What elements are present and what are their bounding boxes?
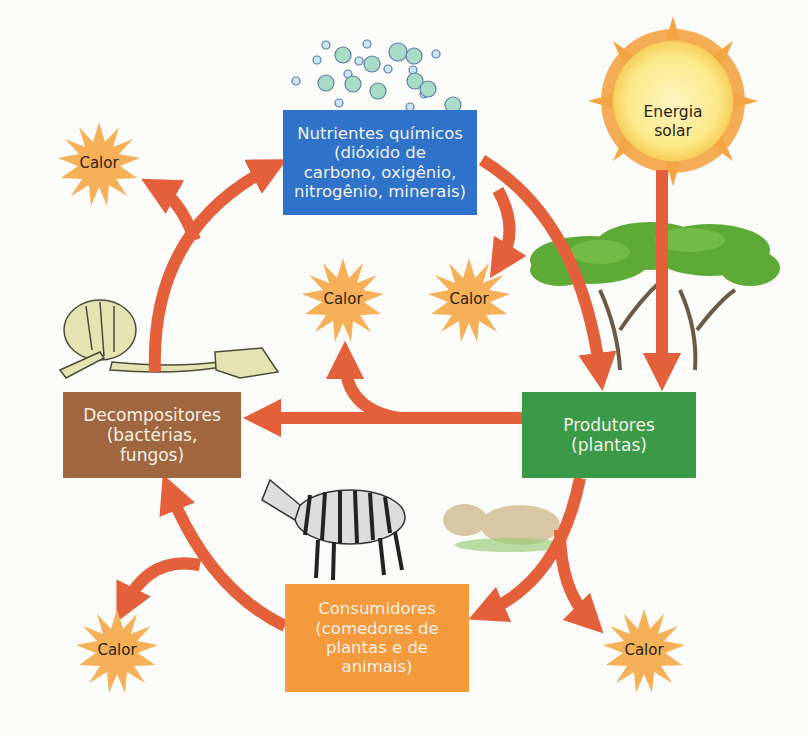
arrow-decomposers-to-heat [158, 188, 195, 240]
consumers-line2: (comedores de [315, 619, 438, 638]
decomposers-line1: Decompositores [83, 405, 221, 425]
heat-label-center-right: Calor [434, 290, 504, 308]
producers-line1: Produtores [563, 415, 655, 435]
zebra-illustration [262, 480, 405, 580]
nutrients-box: Nutrientes químicos (dióxido de carbono,… [283, 110, 477, 215]
sun-label: Energia solar [628, 103, 718, 140]
consumers-line1: Consumidores [315, 599, 438, 618]
decomposers-line3: fungos) [83, 445, 221, 465]
decomposers-line2: (bactérias, [83, 425, 221, 445]
sun-icon [588, 16, 758, 186]
skeleton-illustration [60, 300, 278, 378]
arrow-producers-to-heat [345, 360, 400, 418]
consumers-line3: plantas e de [315, 638, 438, 657]
heat-label-bottom-left: Calor [82, 641, 152, 659]
nutrients-line2: (dióxido de [294, 143, 466, 162]
arrow-consumers-to-heat-left [125, 563, 200, 605]
producers-box: Produtores (plantas) [522, 392, 696, 478]
lioness-illustration [443, 504, 565, 552]
sun-label-line2: solar [628, 122, 718, 141]
heat-label-top-left: Calor [64, 154, 134, 172]
consumers-box: Consumidores (comedores de plantas e de … [285, 584, 469, 692]
nutrients-line3: carbono, oxigênio, [294, 163, 466, 182]
molecules-illustration [292, 40, 461, 113]
sun-label-line1: Energia [628, 103, 718, 122]
nutrients-line4: nitrogênio, minerais) [294, 182, 466, 201]
decomposers-box: Decompositores (bactérias, fungos) [63, 392, 241, 478]
consumers-line4: animais) [315, 657, 438, 676]
nutrients-line1: Nutrientes químicos [294, 124, 466, 143]
heat-label-bottom-right: Calor [609, 641, 679, 659]
arrow-consumers-to-heat [560, 530, 590, 620]
heat-label-center-left: Calor [308, 290, 378, 308]
arrow-nutrients-to-heat [498, 190, 510, 262]
producers-line2: (plantas) [563, 435, 655, 455]
